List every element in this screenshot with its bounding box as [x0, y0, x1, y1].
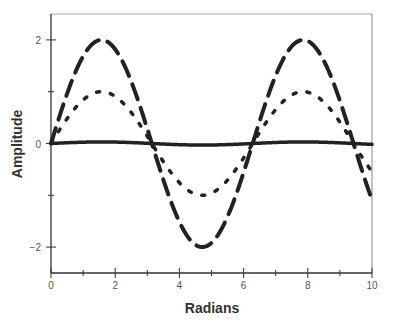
x-tick-label: 0: [48, 280, 54, 291]
plot-series: [51, 40, 372, 247]
y-tick-label: 0: [35, 139, 41, 150]
series-solid-line: [51, 142, 372, 145]
x-tick-label: 4: [177, 280, 183, 291]
y-axis-title: Amplitude: [9, 110, 25, 179]
x-tick-label: 6: [241, 280, 247, 291]
y-tick-label: −2: [30, 242, 42, 253]
x-tick-label: 10: [366, 280, 378, 291]
x-tick-label: 8: [305, 280, 311, 291]
x-axis-title: Radians: [185, 300, 240, 316]
x-tick-label: 2: [112, 280, 118, 291]
chart: 0246810−202 Radians Amplitude: [0, 0, 393, 330]
axis-ticks: 0246810−202: [30, 35, 378, 291]
y-tick-label: 2: [35, 35, 41, 46]
